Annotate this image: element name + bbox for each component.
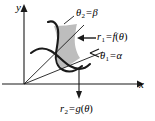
r2-label: r2=g(θ) (60, 104, 93, 116)
r1-paren-close: ) (124, 31, 128, 42)
polar-region-figure: y x θ2=β r1=f(θ) θ1=α r2=g(θ) (0, 0, 155, 121)
theta1-subscript: 1 (105, 55, 109, 63)
theta2-value: β (92, 7, 97, 18)
theta2-label: θ2=β (76, 8, 98, 20)
r1-leader-arrow (77, 35, 96, 42)
y-axis (21, 4, 28, 84)
theta1-label: θ1=α (100, 51, 122, 63)
r1-label: r1=f(θ) (97, 32, 128, 44)
x-axis-label: x (139, 79, 144, 90)
y-axis-label: y (16, 2, 21, 13)
r2-paren-close: ) (89, 103, 93, 114)
theta1-value: α (116, 50, 122, 61)
x-axis (2, 81, 144, 88)
theta2-leader (64, 16, 74, 24)
theta2-subscript: 2 (81, 12, 85, 20)
